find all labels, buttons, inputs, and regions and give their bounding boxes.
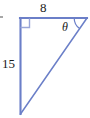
triangle-figure: 8 15 θ [0,0,90,118]
top-leg-label: 8 [40,1,47,14]
hypotenuse-line [21,18,88,114]
left-leg-label: 15 [2,57,15,70]
angle-theta-label: θ [62,21,68,33]
right-angle-marker [21,19,30,28]
scan-artifact [0,16,3,18]
angle-arc [74,18,79,29]
